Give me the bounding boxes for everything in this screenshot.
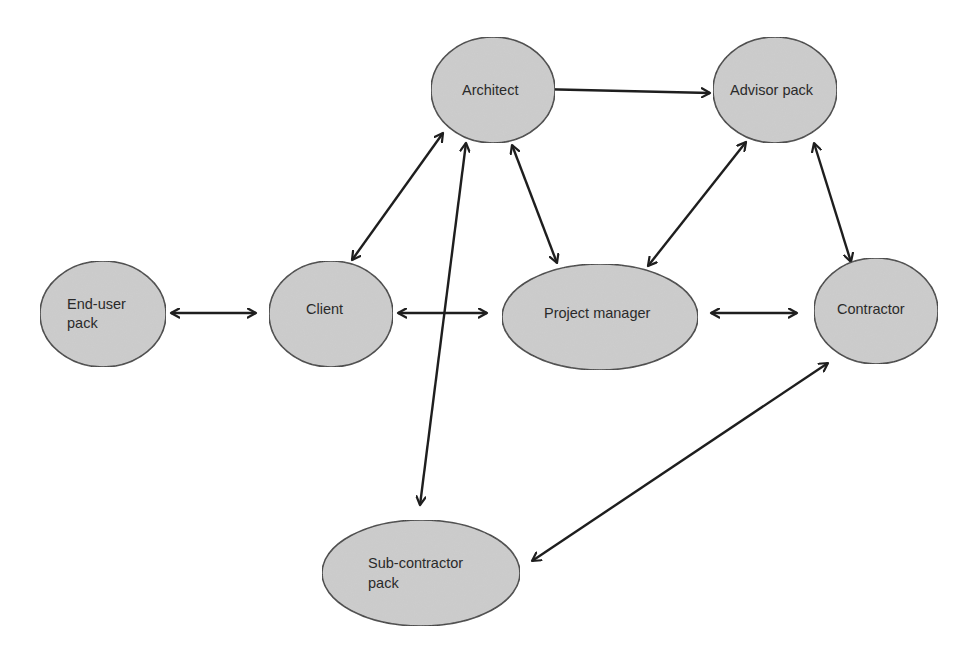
arrow-contractor-to-sub-contractor-pack: [532, 363, 828, 561]
node-client: Client: [269, 261, 393, 367]
node-label-architect: Architect: [462, 82, 518, 98]
node-project-manager: Project manager: [502, 264, 698, 370]
node-label-end-user-pack: pack: [67, 315, 98, 331]
arrow-advisor-pack-to-contractor: [814, 143, 851, 262]
arrow-architect-to-advisor-pack: [537, 89, 710, 93]
node-architect: Architect: [431, 37, 555, 143]
node-label-client: Client: [306, 301, 343, 317]
stakeholder-diagram: ArchitectAdvisor packEnd-userpackClientP…: [0, 0, 970, 653]
node-end-user-pack: End-userpack: [40, 261, 166, 367]
nodes-layer: ArchitectAdvisor packEnd-userpackClientP…: [40, 37, 938, 626]
node-advisor-pack: Advisor pack: [713, 37, 837, 143]
node-ellipse-sub-contractor-pack: [322, 520, 520, 626]
node-label-end-user-pack: End-user: [67, 296, 126, 312]
arrow-architect-to-sub-contractor-pack: [420, 143, 466, 505]
node-label-sub-contractor-pack: Sub-contractor: [368, 555, 463, 571]
node-label-advisor-pack: Advisor pack: [730, 82, 814, 98]
arrow-advisor-pack-to-project-manager: [648, 142, 746, 266]
node-label-sub-contractor-pack: pack: [368, 575, 399, 591]
node-contractor: Contractor: [814, 258, 938, 364]
node-label-contractor: Contractor: [837, 301, 905, 317]
node-sub-contractor-pack: Sub-contractorpack: [322, 520, 520, 626]
node-ellipse-end-user-pack: [40, 261, 166, 367]
arrow-architect-to-project-manager: [512, 145, 557, 263]
arrow-architect-to-client: [352, 133, 443, 260]
node-label-project-manager: Project manager: [544, 305, 651, 321]
